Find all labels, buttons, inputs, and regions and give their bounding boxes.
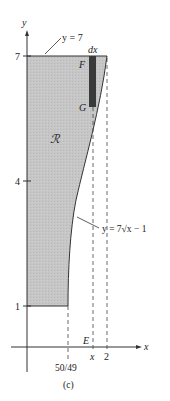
- x-tick-label-2: 2: [104, 351, 109, 362]
- label-g: G: [79, 102, 86, 113]
- y-tick-label-4: 4: [15, 176, 20, 187]
- label-dx: dx: [88, 44, 98, 55]
- label-y-equals-7: y = 7: [62, 32, 83, 43]
- label-f: F: [78, 59, 86, 70]
- strip-dx: [89, 56, 96, 107]
- region-label: ℛ: [50, 132, 61, 146]
- x-tick-label-x: x: [89, 351, 95, 362]
- x-axis-arrow-icon: [136, 345, 142, 349]
- label-e: E: [82, 335, 89, 346]
- x-axis-label: x: [143, 341, 149, 352]
- y-axis-arrow-icon: [25, 30, 29, 36]
- leader-curve: [77, 217, 99, 228]
- y-tick-label-1: 1: [15, 301, 20, 312]
- region-diagram: y x 7 4 1 50/49 x 2 (c) y = 7 y = 7√x − …: [0, 0, 170, 401]
- y-axis-label: y: [21, 17, 27, 28]
- label-curve: y = 7√x − 1: [102, 224, 147, 234]
- caption: (c): [63, 380, 74, 391]
- x-tick-label-50-49: 50/49: [55, 363, 77, 373]
- y-tick-label-7: 7: [15, 51, 20, 62]
- leader-y-7: [45, 38, 61, 54]
